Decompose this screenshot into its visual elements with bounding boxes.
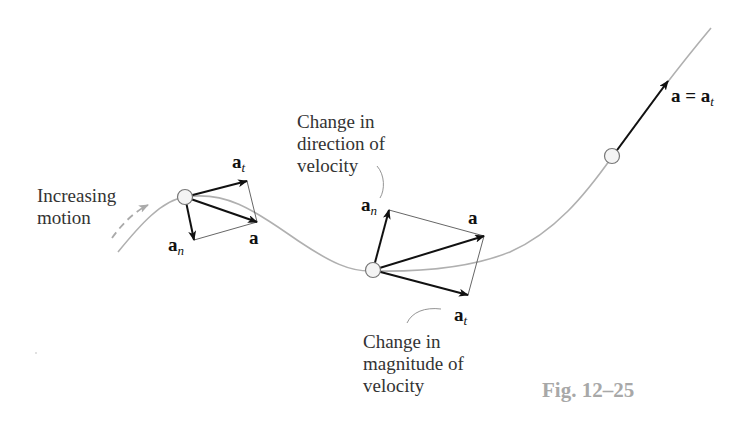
vector-an-p2 xyxy=(373,210,389,270)
label-line: Change in xyxy=(297,111,385,133)
vec-main: a xyxy=(232,151,242,172)
label-increasing-motion: Increasing motion xyxy=(37,185,116,229)
label-line: Increasing xyxy=(37,185,116,207)
label-at-p1: at xyxy=(232,151,245,176)
label-an-p2: an xyxy=(361,194,377,219)
label-change-direction: Change in direction of velocity xyxy=(297,111,385,177)
vector-a-p1 xyxy=(185,197,257,222)
label-at-p2: at xyxy=(454,304,467,329)
vec-sub: n xyxy=(371,203,378,218)
vec-main: a xyxy=(361,194,371,215)
vector-at-p2 xyxy=(373,270,468,295)
figure-caption: Fig. 12–25 xyxy=(542,378,634,403)
leader-change-magnitude xyxy=(407,309,441,323)
label-line: Change in xyxy=(363,331,464,353)
particle-3 xyxy=(605,149,620,164)
label-line: velocity xyxy=(297,155,385,177)
vec-main: a = a xyxy=(671,85,710,106)
vec-sub: t xyxy=(464,313,468,328)
label-line: magnitude of xyxy=(363,353,464,375)
vec-sub: t xyxy=(242,160,246,175)
vector-at-p1 xyxy=(185,181,247,197)
speck xyxy=(35,352,37,354)
label-a-equals-at: a = at xyxy=(671,85,714,110)
label-a-p2: a xyxy=(468,207,478,229)
label-line: direction of xyxy=(297,133,385,155)
label-change-magnitude: Change in magnitude of velocity xyxy=(363,331,464,397)
particle-2 xyxy=(366,263,381,278)
particle-1 xyxy=(178,190,193,205)
vec-sub: t xyxy=(710,94,714,109)
label-line: motion xyxy=(37,207,116,229)
label-an-p1: an xyxy=(168,234,184,259)
label-line: velocity xyxy=(363,375,464,397)
label-a-p1: a xyxy=(249,227,259,249)
vec-main: a xyxy=(168,234,178,255)
vec-main: a xyxy=(454,304,464,325)
vec-sub: n xyxy=(178,243,185,258)
increasing-motion-arrow xyxy=(112,205,148,238)
vector-a-equals-at-p3 xyxy=(612,81,668,157)
motion-path xyxy=(118,28,711,271)
